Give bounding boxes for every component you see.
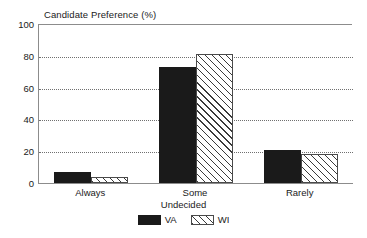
legend-swatch-va: [138, 215, 161, 225]
y-tick-label: 20: [23, 147, 34, 157]
chart-title: Candidate Preference (%): [44, 9, 156, 20]
bar-chart-figure: Candidate Preference (%) 020406080100 Al…: [0, 0, 367, 238]
y-tick-label: 100: [18, 20, 34, 30]
chart-legend: VAWI: [0, 214, 367, 225]
y-tick-label: 80: [23, 52, 34, 62]
legend-label-wi: WI: [218, 214, 230, 225]
plot-area: 020406080100: [38, 24, 352, 183]
y-tick-label: 40: [23, 115, 34, 125]
bar-group-always: [54, 25, 128, 183]
bar-va-rarely: [264, 150, 301, 183]
x-tick-label-rarely: Rarely: [286, 187, 313, 198]
legend-item-va: VA: [138, 214, 177, 225]
legend-swatch-wi: [191, 215, 214, 225]
bar-wi-some: [196, 54, 233, 183]
bar-va-always: [54, 172, 91, 183]
legend-label-va: VA: [165, 214, 177, 225]
x-axis-label: Undecided: [0, 199, 367, 210]
x-axis-baseline: [38, 183, 353, 184]
x-tick-label-some: Some: [183, 187, 208, 198]
y-tick-label: 60: [23, 84, 34, 94]
bar-wi-rarely: [301, 154, 338, 183]
bar-va-some: [159, 67, 196, 183]
bar-group-rarely: [264, 25, 338, 183]
x-tick-label-always: Always: [75, 187, 105, 198]
legend-item-wi: WI: [191, 214, 230, 225]
y-tick-label: 0: [29, 179, 34, 189]
bar-group-some: [159, 25, 233, 183]
